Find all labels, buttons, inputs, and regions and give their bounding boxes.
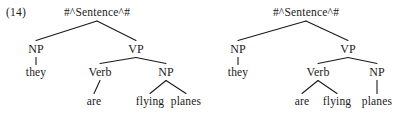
tree-edge-verb-are — [94, 81, 100, 94]
tree-edge-vp-np2 — [348, 58, 377, 64]
tree-node-np2: NP — [158, 66, 174, 78]
tree-node-planes: planes — [362, 96, 392, 108]
tree-edge-verb-are — [302, 81, 318, 94]
tree-edge-root-vp — [97, 21, 136, 41]
tree-edge-root-np1 — [238, 21, 306, 41]
tree-node-vp: VP — [128, 43, 144, 55]
tree-edge-vp-verb — [318, 58, 348, 64]
parse-tree-figure: (14) #^Sentence^#NPVPtheyVerbNPareflying… — [0, 0, 407, 121]
tree-node-flying: flying — [136, 96, 164, 108]
tree-node-flying: flying — [323, 96, 351, 108]
tree-edge-root-np1 — [36, 21, 97, 41]
tree-node-vp: VP — [340, 43, 356, 55]
tree-edge-np2-planes — [166, 81, 186, 94]
tree-node-planes: planes — [171, 96, 201, 108]
tree-node-are: are — [295, 96, 310, 108]
tree-node-root: #^Sentence^# — [64, 7, 130, 19]
tree-edge-np2-flying — [150, 81, 166, 94]
example-number: (14) — [6, 7, 26, 19]
tree-edge-vp-verb — [100, 58, 136, 64]
tree-edge-root-vp — [306, 21, 348, 41]
tree-node-np1: NP — [28, 43, 44, 55]
tree-edge-vp-np2 — [136, 58, 166, 64]
tree-node-are: are — [87, 96, 102, 108]
tree-node-they: they — [26, 67, 46, 79]
tree-node-np1: NP — [230, 43, 246, 55]
tree-node-np2: NP — [369, 66, 385, 78]
tree-node-verb: Verb — [306, 66, 329, 78]
tree-node-they: they — [228, 67, 248, 79]
tree-node-verb: Verb — [88, 66, 111, 78]
tree-node-root: #^Sentence^# — [273, 7, 339, 19]
tree-edge-verb-flying — [318, 81, 337, 94]
